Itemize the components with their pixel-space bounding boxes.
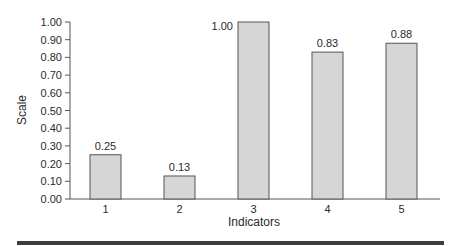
bar-4 — [312, 52, 343, 199]
bar-value-label: 0.25 — [95, 140, 116, 152]
y-tick-label: 1.00 — [41, 16, 62, 28]
x-axis-title: Indicators — [228, 215, 280, 229]
y-axis-title: Scale — [15, 95, 29, 125]
x-tick-label: 5 — [398, 203, 404, 215]
x-tick-label: 4 — [324, 203, 330, 215]
bar-2 — [164, 176, 195, 199]
bars: 0.250.131.000.830.88 — [90, 20, 417, 199]
y-tick-label: 0.70 — [41, 69, 62, 81]
y-tick-label: 0.40 — [41, 122, 62, 134]
y-tick-label: 0.60 — [41, 87, 62, 99]
bar-value-label: 1.00 — [212, 20, 233, 32]
bar-3 — [238, 22, 269, 199]
bar-1 — [90, 155, 121, 199]
bar-chart: 0.000.100.200.300.400.500.600.700.800.90… — [0, 0, 456, 246]
bar-5 — [386, 43, 417, 199]
y-axis: 0.000.100.200.300.400.500.600.700.800.90… — [41, 16, 70, 205]
y-tick-label: 0.00 — [41, 193, 62, 205]
x-tick-label: 1 — [102, 203, 108, 215]
bar-value-label: 0.83 — [317, 37, 338, 49]
bar-value-label: 0.88 — [391, 28, 412, 40]
y-tick-label: 0.90 — [41, 34, 62, 46]
footer-rule — [17, 241, 444, 245]
y-tick-label: 0.50 — [41, 105, 62, 117]
y-tick-label: 0.10 — [41, 175, 62, 187]
x-tick-label: 2 — [176, 203, 182, 215]
y-tick-label: 0.80 — [41, 51, 62, 63]
y-tick-label: 0.20 — [41, 158, 62, 170]
x-axis: 12345 — [70, 199, 440, 215]
y-tick-label: 0.30 — [41, 140, 62, 152]
bar-value-label: 0.13 — [169, 161, 190, 173]
x-tick-label: 3 — [250, 203, 256, 215]
